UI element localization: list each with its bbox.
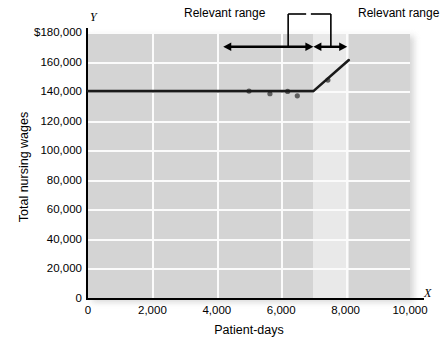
relevant-range-left-arrow-head-left xyxy=(223,43,231,51)
relevant-range-right-leader xyxy=(311,14,331,48)
relevant-range-left-leader xyxy=(288,14,306,48)
cost-line xyxy=(88,60,349,91)
relevant-range-left-arrow-head-right xyxy=(305,43,313,51)
chart-overlay xyxy=(0,0,448,351)
relevant-range-right-arrow-head-right xyxy=(339,43,347,51)
chart-figure: Y X 020,00040,00060,00080,000100,000120,… xyxy=(0,0,448,351)
relevant-range-right-arrow-head-left xyxy=(313,43,321,51)
data-point-marker xyxy=(295,93,300,98)
relevant-range-left-arrow xyxy=(223,43,313,51)
